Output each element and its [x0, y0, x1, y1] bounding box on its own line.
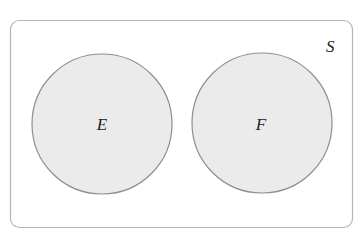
- set-f-label: F: [255, 115, 267, 134]
- set-e-label: E: [96, 115, 108, 134]
- venn-diagram: S E F: [0, 0, 361, 229]
- sample-space-label: S: [326, 37, 335, 56]
